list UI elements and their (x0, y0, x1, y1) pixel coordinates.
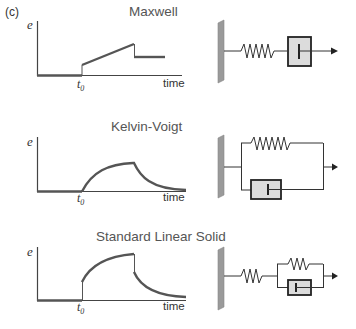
wall-icon (218, 247, 224, 310)
kelvin-voigt-plot (37, 137, 186, 192)
sls-model (218, 247, 338, 310)
arrow-icon (332, 273, 338, 280)
wall-icon (218, 135, 224, 198)
sls-plot (37, 247, 186, 301)
arrow-icon (331, 48, 338, 55)
maxwell-model (218, 20, 338, 83)
arrow-icon (332, 164, 338, 171)
wall-icon (218, 20, 224, 83)
maxwell-plot (37, 21, 182, 76)
kelvin-voigt-model (218, 135, 338, 199)
spring-icon (241, 44, 287, 58)
spring-icon (277, 258, 323, 270)
figure-graphics (0, 0, 356, 329)
spring-icon (241, 137, 323, 150)
spring-icon (241, 269, 277, 283)
